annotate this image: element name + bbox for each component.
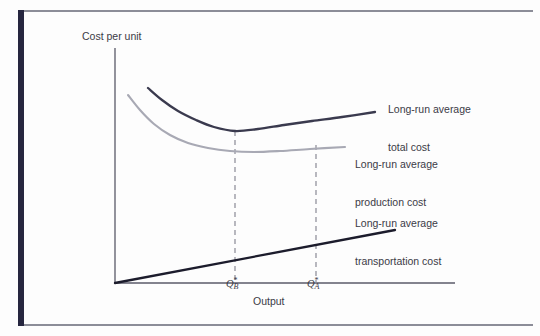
series-label-total-cost-line1: Long-run average — [388, 103, 471, 116]
series-label-transportation-cost-line2: transportation cost — [355, 255, 441, 268]
curve-long-run-average-total-cost — [148, 88, 375, 131]
figure-canvas: Cost per unit Output Long-run average to… — [0, 0, 540, 336]
curve-long-run-average-production-cost — [128, 95, 345, 152]
series-label-transportation-cost: Long-run average transportation cost — [355, 192, 441, 292]
x-tick-label-qa-sub: A — [315, 282, 320, 291]
x-tick-label-qb-base: Q — [226, 278, 234, 289]
x-axis-label: Output — [253, 295, 285, 308]
x-tick-label-qa: Q*A — [307, 278, 319, 289]
series-label-production-cost-line1: Long-run average — [355, 158, 438, 171]
x-tick-label-qb: Q*B — [226, 278, 238, 289]
x-tick-label-qa-base: Q — [307, 278, 315, 289]
y-axis-label: Cost per unit — [82, 30, 142, 43]
series-label-transportation-cost-line1: Long-run average — [355, 217, 441, 230]
x-tick-label-qb-sub: B — [234, 282, 239, 291]
curve-long-run-average-transportation-cost — [115, 230, 395, 283]
